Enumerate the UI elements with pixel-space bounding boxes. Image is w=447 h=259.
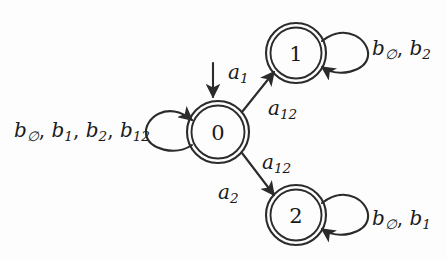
symbol-b-1: b1 — [410, 206, 431, 230]
symbol-b-2: b2 — [86, 118, 107, 142]
automaton-diagram: 0 1 2 b∅, b1, b2, b12 b∅, b2 b∅, b1 a1 a… — [0, 0, 447, 259]
symbol-b-empty: b∅ — [14, 118, 39, 142]
symbol-a-1: a1 — [228, 60, 249, 84]
self-loop-state-2 — [322, 195, 368, 235]
symbol-b-2: b2 — [410, 36, 431, 60]
state-label-2: 2 — [289, 206, 302, 227]
state-label-1: 1 — [289, 44, 302, 65]
initial-transition-label: a1 — [228, 62, 249, 85]
self-loop-state-0 — [146, 111, 192, 150]
symbol-a-2: a2 — [218, 180, 239, 204]
self-loop-label-state-0: b∅, b1, b2, b12 — [14, 120, 150, 143]
self-loop-label-state-2: b∅, b1 — [372, 208, 431, 231]
transition-label-0-to-2-upper: a12 — [262, 152, 291, 175]
transition-label-0-to-1: a12 — [268, 98, 297, 121]
transition-label-0-to-2-lower: a2 — [218, 182, 239, 205]
state-label-0: 0 — [211, 123, 224, 144]
symbol-a-12: a12 — [268, 96, 297, 120]
self-loop-label-state-1: b∅, b2 — [372, 38, 431, 61]
symbol-b-12: b12 — [120, 118, 150, 142]
symbol-b-empty: b∅ — [372, 206, 397, 230]
self-loop-state-1 — [322, 33, 368, 73]
symbol-a-12: a12 — [262, 150, 291, 174]
symbol-b-empty: b∅ — [372, 36, 397, 60]
symbol-b-1: b1 — [52, 118, 73, 142]
